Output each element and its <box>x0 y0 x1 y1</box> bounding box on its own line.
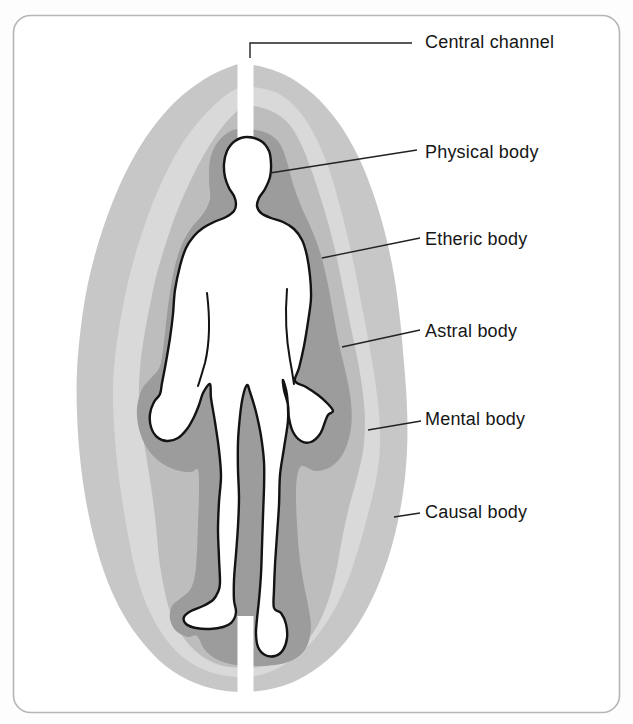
label-astral-body: Astral body <box>425 322 517 341</box>
central-channel-top <box>238 56 254 138</box>
central-channel-bottom <box>238 616 254 696</box>
page: Central channel Physical body Etheric bo… <box>0 0 633 724</box>
label-causal-body: Causal body <box>425 503 527 522</box>
aura-figure-diagram <box>0 0 633 724</box>
label-etheric-body: Etheric body <box>425 230 527 249</box>
label-central-channel: Central channel <box>425 33 554 52</box>
label-mental-body: Mental body <box>425 410 525 429</box>
label-physical-body: Physical body <box>425 143 539 162</box>
